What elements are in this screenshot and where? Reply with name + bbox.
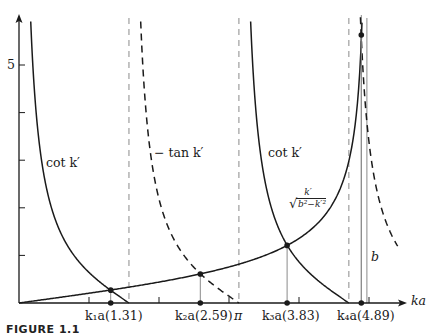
curve-label-neg-tan: − tan k′ (154, 147, 203, 160)
figure-caption: FIGURE 1.1 (6, 323, 80, 334)
b-label: b (371, 251, 379, 264)
root-label-k2: k₂a(2.59) (175, 310, 233, 323)
fraction-denominator: b²−k′² (290, 200, 326, 209)
x-axis-label: ka (411, 295, 426, 308)
y-tick-label-5: 5 (7, 59, 15, 72)
intersection-dot (284, 243, 290, 249)
curve-tanx (360, 17, 397, 246)
intersection-dot (108, 287, 114, 293)
axis-root-dot (198, 300, 204, 306)
curve-label-sqrt-fraction: k′ b²−k′² (290, 188, 326, 209)
intersection-dot (359, 32, 365, 38)
intersection-dot (198, 271, 204, 277)
intersection-drop-lines (111, 35, 362, 303)
curve-cotx (251, 22, 349, 303)
curve-label-cot-left: cot k′ (46, 157, 80, 170)
axis-root-dot (359, 300, 365, 306)
axis-root-dot (108, 300, 114, 306)
root-label-k1: k₁a(1.31) (85, 310, 143, 323)
root-label-k4: k₄a(4.89) (337, 310, 395, 323)
axis-root-dot (284, 300, 290, 306)
curve-tanx (141, 22, 239, 303)
root-label-k3: k₃a(3.83) (262, 310, 320, 323)
pi-label: π (234, 310, 242, 323)
curve-label-cot-right: cot k′ (268, 147, 302, 160)
